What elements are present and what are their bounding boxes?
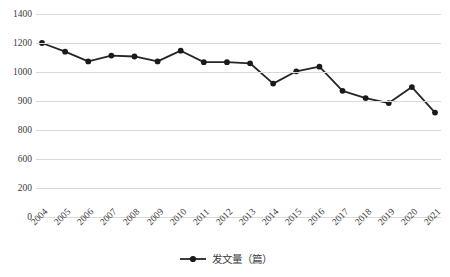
gridline: [36, 159, 441, 160]
gridline: [36, 101, 441, 102]
gridline: [36, 14, 441, 15]
y-tick-label: 200: [0, 183, 32, 193]
gridline: [36, 72, 441, 73]
y-tick-label: 1000: [0, 67, 32, 77]
data-point-marker: 2008: 1107: [132, 54, 138, 60]
gridline: [36, 130, 441, 131]
gridline: [36, 188, 441, 189]
series-polyline: [42, 43, 435, 113]
data-point-marker: 2016: 1037: [317, 64, 323, 70]
series-line-fawenliang: 2004: 12002005: 11402006: 10732007: 1113…: [36, 14, 441, 217]
data-point-marker: 2006: 1073: [85, 59, 91, 65]
plot-area: 2004: 12002005: 11402006: 10732007: 1113…: [36, 14, 441, 217]
data-point-marker: 2020: 948: [409, 84, 415, 90]
y-tick-label: 1400: [0, 9, 32, 19]
gridline: [36, 43, 441, 44]
y-tick-label: 1200: [0, 38, 32, 48]
y-tick-label: 0: [0, 212, 32, 222]
y-axis: 1400120010009008006002000: [0, 0, 32, 231]
data-point-marker: 2013: 1060: [247, 60, 253, 66]
legend-label-fawenliang: 发文量（篇）: [212, 253, 272, 265]
line-chart: 1400120010009008006002000 2004: 12002005…: [0, 0, 450, 277]
data-point-marker: 2010: 1147: [178, 48, 184, 54]
y-tick-label: 900: [0, 96, 32, 106]
data-point-marker: 2017: 935: [340, 88, 346, 94]
data-point-marker: 2021: 860: [432, 110, 438, 116]
legend-line-with-circle-marker-icon: [179, 254, 207, 264]
data-point-marker: 2014: 960: [270, 81, 276, 87]
y-tick-label: 800: [0, 125, 32, 135]
data-point-marker: 2011: 1068: [201, 59, 207, 65]
data-point-marker: 2005: 1140: [62, 49, 68, 55]
data-point-marker: 2007: 1113: [108, 53, 114, 59]
y-tick-label: 600: [0, 154, 32, 164]
data-point-marker: 2012: 1068: [224, 59, 230, 65]
x-tick-label: 2004: [29, 207, 50, 228]
data-point-marker: 2009: 1073: [155, 59, 161, 65]
chart-legend: 发文量（篇）: [0, 253, 450, 265]
